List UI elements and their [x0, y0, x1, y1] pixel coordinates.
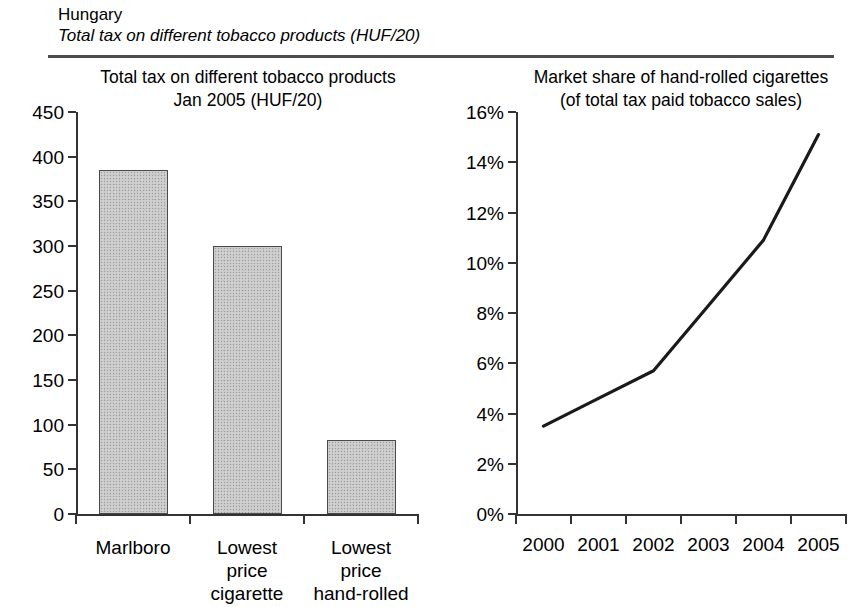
- bar-chart-y-tick-label: 350: [0, 192, 64, 211]
- bar: [99, 170, 168, 514]
- bar-chart-y-tick-label: 150: [0, 371, 64, 390]
- header-divider: [48, 55, 834, 58]
- line-chart: 0%2%4%6%8%10%12%14%16% 20002001200220032…: [440, 96, 864, 607]
- bar-chart-category-label-line: price: [304, 559, 418, 582]
- bar-chart-y-tick: [68, 468, 76, 470]
- figure-root: Hungary Total tax on different tobacco p…: [0, 0, 864, 607]
- bar-chart-y-tick: [68, 379, 76, 381]
- country-label: Hungary: [58, 4, 122, 25]
- bar-chart-category-label: Marlboro: [76, 536, 190, 559]
- bar-chart-x-tick: [303, 514, 305, 524]
- bar-chart-y-tick: [68, 200, 76, 202]
- bar-chart-y-tick: [68, 245, 76, 247]
- bar-chart-y-tick-label: 50: [0, 460, 64, 479]
- bar-chart-x-tick: [189, 514, 191, 524]
- bar-chart-y-tick-label: 200: [0, 326, 64, 345]
- line-chart-x-tick: [570, 514, 572, 524]
- line-chart-title-line1: Market share of hand-rolled cigarettes: [498, 66, 864, 89]
- bar-chart: 050100150200250300350400450 MarlboroLowe…: [0, 96, 440, 607]
- bar-chart-x-axis-line: [76, 514, 418, 516]
- bar-chart-y-tick-label: 450: [0, 103, 64, 122]
- bar-chart-y-tick: [68, 334, 76, 336]
- line-chart-series: [440, 96, 864, 607]
- bar-chart-y-tick: [68, 290, 76, 292]
- bar-chart-x-tick: [417, 514, 419, 524]
- bar-chart-x-tick: [75, 514, 77, 524]
- bar: [213, 246, 282, 514]
- bar-chart-y-tick-label: 100: [0, 415, 64, 434]
- bar-chart-y-tick-label: 400: [0, 147, 64, 166]
- bar-chart-y-tick-label: 0: [0, 505, 64, 524]
- bar-chart-category-label-line: Lowest: [190, 536, 304, 559]
- line-chart-x-tick-label: 2005: [785, 534, 852, 556]
- line-chart-x-tick: [735, 514, 737, 524]
- bar-chart-y-tick: [68, 111, 76, 113]
- line-chart-x-tick: [680, 514, 682, 524]
- line-chart-x-tick: [790, 514, 792, 524]
- bar-chart-y-tick-label: 300: [0, 237, 64, 256]
- bar-chart-title-line1: Total tax on different tobacco products: [62, 66, 434, 89]
- bar: [327, 440, 396, 514]
- bar-chart-y-axis-line: [76, 112, 78, 516]
- bar-chart-category-label-line: Lowest: [304, 536, 418, 559]
- line-chart-x-tick: [625, 514, 627, 524]
- bar-chart-category-label-line: Marlboro: [76, 536, 190, 559]
- line-chart-x-tick: [515, 514, 517, 524]
- bar-chart-y-tick-label: 250: [0, 281, 64, 300]
- bar-chart-category-label-line: price: [190, 559, 304, 582]
- bar-chart-y-tick: [68, 424, 76, 426]
- bar-chart-y-tick: [68, 156, 76, 158]
- market-share-line: [544, 135, 819, 427]
- bar-chart-category-label: Lowestpricehand-rolled: [304, 536, 418, 605]
- bar-chart-category-label-line: cigarette: [190, 582, 304, 605]
- figure-subtitle: Total tax on different tobacco products …: [58, 25, 420, 46]
- bar-chart-category-label: Lowestpricecigarette: [190, 536, 304, 605]
- bar-chart-category-label-line: hand-rolled: [304, 582, 418, 605]
- line-chart-x-tick: [845, 514, 847, 524]
